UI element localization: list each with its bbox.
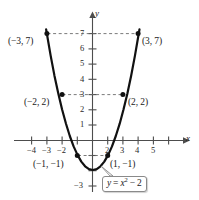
point-label-1-neg1: (1, −1) (110, 160, 135, 170)
x-axis-label: x (186, 134, 190, 143)
x-tick-label-neg3: −3 (42, 146, 51, 155)
point-3-7 (136, 31, 141, 36)
point-2-2 (120, 92, 125, 97)
x-tick-label-4: 4 (135, 146, 139, 155)
x-tick-label-3: 3 (120, 146, 124, 155)
y-tick-label-neg3: −3 (74, 181, 83, 190)
point-label-3-7: (3, 7) (142, 37, 162, 47)
point-neg3-7 (44, 31, 49, 36)
x-tick-label-neg4: −4 (27, 146, 36, 155)
x-tick-label-neg2: −2 (57, 146, 66, 155)
y-tick-label-6: 6 (80, 44, 84, 53)
parabola-graph-figure: x y −4 −3 −2 2 3 4 5 7 6 5 4 3 2 1 −3 (−… (0, 0, 199, 200)
y-tick-label-4: 4 (80, 75, 84, 84)
point-neg2-2 (60, 92, 65, 97)
x-tick-label-2: 2 (105, 146, 109, 155)
point-label-neg2-2: (−2, 2) (24, 98, 49, 108)
point-label-neg3-7: (−3, 7) (8, 37, 33, 47)
x-tick-label-5: 5 (151, 146, 155, 155)
point-neg1-neg1 (75, 153, 80, 158)
point-label-2-2: (2, 2) (128, 98, 148, 108)
y-axis-label: y (95, 9, 99, 18)
equation-callout-box: y = x2 − 2 (102, 176, 147, 192)
y-tick-label-3: 3 (80, 90, 84, 99)
y-tick-label-7: 7 (80, 29, 84, 38)
equation-equals: = (111, 178, 120, 188)
y-tick-label-5: 5 (80, 59, 84, 68)
y-tick-label-1: 1 (80, 120, 84, 129)
y-tick-label-2: 2 (80, 105, 84, 114)
equation-tail: − 2 (128, 178, 142, 188)
point-label-neg1-neg1: (−1, −1) (33, 160, 64, 170)
